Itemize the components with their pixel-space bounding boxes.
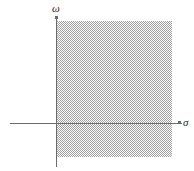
horizontal-axis-sigma [10,123,182,124]
vertical-axis-arrow-icon [55,16,58,19]
shaded-right-half-plane-region [56,21,172,157]
axis-label-omega: ω [52,3,60,14]
axis-label-sigma: σ [183,117,188,128]
s-plane-diagram: ω σ [0,0,194,171]
horizontal-axis-arrow-icon [178,121,181,124]
vertical-axis-omega [56,17,57,167]
